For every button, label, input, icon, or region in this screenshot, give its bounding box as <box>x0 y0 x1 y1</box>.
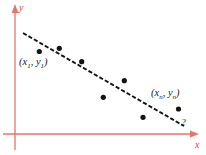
x-axis <box>3 131 199 138</box>
first-point-label: (x1, y1) <box>19 57 48 68</box>
y-axis-label: y <box>19 3 23 13</box>
data-point <box>101 95 106 100</box>
best-fit-line <box>23 33 184 126</box>
data-point <box>122 78 127 83</box>
last-point-label-close: ) <box>176 87 180 98</box>
data-point <box>57 46 62 51</box>
scatter-plot-figure: y x (x1, y1) (xn, yn) ? <box>0 0 206 155</box>
last-point-label: (xn, yn) <box>151 88 180 99</box>
x-axis-label: x <box>195 140 199 150</box>
data-point <box>176 106 181 111</box>
y-axis-arrowhead <box>12 4 19 13</box>
plot-canvas <box>0 0 206 155</box>
first-point-label-close: ) <box>44 56 48 67</box>
data-point-group <box>37 46 181 120</box>
data-point <box>79 59 84 64</box>
y-axis <box>12 4 19 150</box>
data-point <box>140 115 145 120</box>
question-mark-annotation: ? <box>182 118 186 127</box>
x-axis-arrowhead <box>190 131 199 138</box>
data-point <box>37 49 42 54</box>
